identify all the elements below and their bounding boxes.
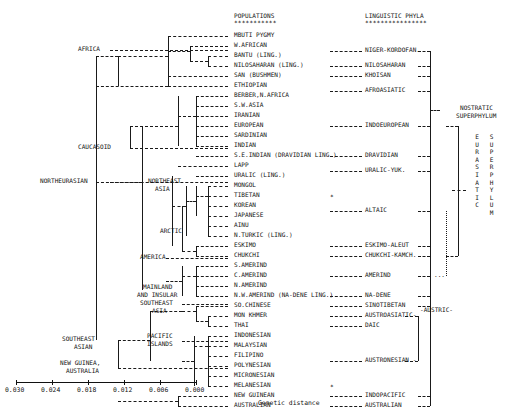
- phylum-leader-0: [330, 51, 362, 52]
- branch-caucasoid: [130, 126, 178, 127]
- cluster-label-8: AND INSULAR: [137, 291, 177, 298]
- branch-eth: [96, 86, 168, 87]
- branch-mainland: [182, 311, 196, 312]
- node-pacific: [194, 336, 195, 386]
- branch-leaf: [196, 276, 228, 277]
- phylum-label-1: NILOSAHARAN: [365, 61, 405, 68]
- node-bantu-nilo: [208, 56, 209, 66]
- phylum-leader-5: [330, 156, 362, 157]
- austric-bracket: [418, 316, 419, 361]
- axis-tick-3: [124, 380, 125, 385]
- node-ne: [186, 186, 187, 236]
- node-c2: [178, 96, 179, 146]
- branch-america: [182, 276, 196, 277]
- branch-ng-aus: [118, 401, 178, 402]
- population-label-5: ETHIOPIAN: [234, 81, 267, 88]
- branch-leaf: [190, 46, 228, 47]
- phylum-leader-3: [330, 91, 362, 92]
- mainland-leader: [182, 304, 228, 305]
- phylum-label-0: NIGER-KORDOFAN.: [365, 46, 420, 53]
- node-caucasoid: [130, 126, 131, 148]
- branch-leaf: [196, 116, 228, 117]
- phylum-leader-11: [330, 296, 362, 297]
- branch: [178, 116, 196, 117]
- ng-aus-leader: [118, 368, 228, 369]
- branch-leaf: [196, 136, 228, 137]
- branch-leaf: [208, 216, 228, 217]
- eurasiatic-bracket: [458, 126, 459, 256]
- cluster-label-2: NORTHEURASIAN: [40, 177, 88, 184]
- phylum-label-6: URALIC-YUK.: [365, 166, 405, 173]
- population-label-20: N.TURKIC (LING.): [234, 231, 293, 238]
- nostratic-label-line1: NOSTRATIC: [460, 104, 493, 111]
- dotted-amerind-link: [446, 211, 447, 276]
- phylum-rail-2: [418, 76, 430, 77]
- pacific-leader: [182, 341, 228, 342]
- node-mainland: [196, 306, 197, 321]
- population-label-12: S.E.INDIAN (DRAVIDIAN LING.): [234, 151, 337, 158]
- population-label-14: URALIC (LING.): [234, 171, 285, 178]
- branch-leaf: [208, 206, 228, 207]
- branch-leaf: [196, 126, 228, 127]
- branch-leaf: [196, 296, 228, 297]
- branch: [186, 201, 196, 202]
- cluster-label-13: PACIFIC: [147, 332, 173, 339]
- cluster-label-12: ASIAN: [74, 343, 92, 350]
- branch-leaf: [178, 396, 228, 397]
- phylum-label-7: ALTAIC: [365, 206, 387, 213]
- cluster-label-9: SOUTHEAST: [140, 299, 173, 306]
- node-northeurasian: [142, 126, 143, 290]
- phylum-label-4: INDOEUROPEAN: [365, 121, 409, 128]
- eurasiatic-vertical-label: E U R A S I A T I C: [473, 133, 481, 209]
- node-america: [182, 266, 183, 296]
- eurasiatic-top: [446, 126, 458, 127]
- branch-leaf: [196, 156, 228, 157]
- cluster-label-1: CAUCASOID: [78, 143, 111, 150]
- phylum-rail-13: [418, 396, 430, 397]
- node-africa-b: [168, 76, 169, 86]
- phylum-rail-9: [418, 256, 430, 257]
- population-label-25: N.AMERIND: [234, 281, 267, 288]
- phylum-leader-14: [330, 326, 362, 327]
- branch: [194, 346, 208, 347]
- phylum-label-2: KHOISAN: [365, 71, 391, 78]
- node-america-stack: [196, 266, 197, 296]
- population-label-34: MICRONESIAN: [234, 371, 274, 378]
- axis-tick-5: [196, 380, 197, 385]
- branch-leaf: [168, 36, 228, 37]
- cluster-label-6: AMERICA: [140, 253, 166, 260]
- population-label-35: MELANESIAN: [234, 381, 271, 388]
- asterisk-marker-tibetan: *: [330, 193, 334, 200]
- phylum-rail-5: [418, 156, 430, 157]
- branch-leaf: [196, 246, 228, 247]
- branch-neur: [110, 182, 142, 183]
- node-ng-aus: [178, 396, 179, 406]
- eurasiatic-bottom: [446, 256, 458, 257]
- population-label-1: W.AFRICAN: [234, 41, 267, 48]
- population-label-8: IRANIAN: [234, 111, 260, 118]
- cluster-label-3: NORTHEAST: [148, 177, 181, 184]
- nostratic-bracket: [430, 51, 431, 406]
- phylum-rail-14: [418, 406, 430, 407]
- population-label-2: BANTU (LING.): [234, 51, 282, 58]
- node-africa: [118, 56, 119, 86]
- node-pacific-stack: [208, 336, 209, 386]
- node-africa-a: [168, 36, 169, 76]
- axis-tick-2: [88, 380, 89, 385]
- phylum-label-10: AMERIND: [365, 271, 391, 278]
- caucasoid-leader: [130, 148, 228, 149]
- axis-title: Genetic distance: [258, 399, 320, 407]
- axis-tick-1: [52, 380, 53, 385]
- population-label-24: C.AMERIND: [234, 271, 267, 278]
- figure-canvas: POPULATIONS *********** LINGUISTIC PHYLA…: [0, 0, 505, 411]
- branch-leaf: [168, 76, 228, 77]
- branch-leaf: [208, 356, 228, 357]
- cluster-label-7: MAINLAND: [143, 283, 172, 290]
- population-label-26: N.W.AMERIND (NA-DENE LING.): [234, 291, 333, 298]
- population-label-29: THAI: [234, 321, 249, 328]
- branch-leaf: [208, 226, 228, 227]
- node-wafr: [190, 46, 191, 61]
- population-label-31: MALAYSIAN: [234, 341, 267, 348]
- phyla-header: LINGUISTIC PHYLA: [365, 12, 424, 19]
- phylum-leader-4: [330, 126, 362, 127]
